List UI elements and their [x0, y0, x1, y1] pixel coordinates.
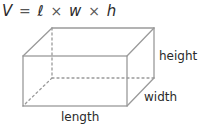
height-label: height	[159, 49, 197, 63]
width-label: width	[144, 90, 177, 104]
front-face	[23, 56, 127, 106]
rectangular-prism-diagram	[0, 0, 199, 136]
length-label: length	[61, 110, 99, 124]
hidden-edges	[23, 28, 154, 106]
